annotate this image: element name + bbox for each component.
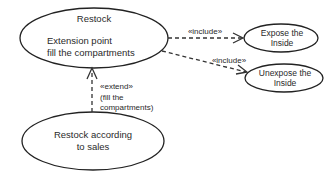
extension-point-heading: Extension point	[47, 35, 112, 46]
use-case-restock-according-to-sales[interactable]: Restock according to sales	[22, 112, 164, 170]
use-case-restock-title: Restock	[77, 13, 112, 24]
extend-relationship[interactable]: «extend» (fill the compartments)	[87, 68, 154, 112]
use-case-restock-sales-line2: to sales	[77, 141, 110, 152]
include-relationship-unexpose[interactable]: «include»	[162, 51, 247, 74]
use-case-unexpose-line1: Unexpose the	[259, 68, 312, 78]
use-case-diagram: Restock Extension point fill the compart…	[0, 0, 333, 182]
use-case-expose-line2: Inside	[271, 38, 294, 48]
extend-condition-line2: compartments)	[100, 103, 154, 112]
include-stereotype-label: «include»	[188, 27, 223, 36]
extend-stereotype-label: «extend»	[100, 82, 133, 91]
include-relationship-expose[interactable]: «include»	[168, 27, 243, 43]
use-case-unexpose-inside[interactable]: Unexpose the Inside	[245, 64, 323, 92]
use-case-unexpose-line2: Inside	[274, 78, 297, 88]
use-case-expose-inside[interactable]: Expose the Inside	[244, 24, 318, 52]
use-case-expose-line1: Expose the	[261, 28, 304, 38]
use-case-restock[interactable]: Restock Extension point fill the compart…	[20, 8, 168, 68]
use-case-restock-sales-line1: Restock according	[54, 129, 132, 140]
extend-condition-line1: (fill the	[100, 93, 124, 102]
include-stereotype-label: «include»	[212, 56, 247, 65]
extension-point-name: fill the compartments	[47, 47, 135, 58]
